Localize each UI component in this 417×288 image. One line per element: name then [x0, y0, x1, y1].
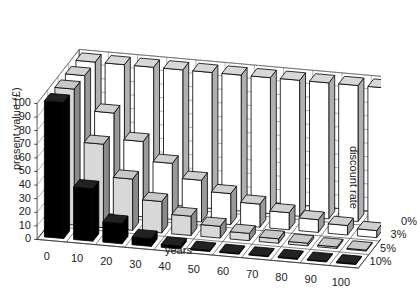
- y-tick-label: 50: [19, 164, 31, 176]
- y-tick-label: 70: [19, 137, 31, 149]
- legend-series-label: 5%: [380, 242, 396, 254]
- bar-front: [310, 81, 329, 219]
- x-tick-label: 60: [217, 265, 229, 277]
- y-tick-label: 10: [19, 219, 31, 231]
- y-tick-label: 30: [19, 192, 31, 204]
- x-tick-label: 20: [100, 255, 112, 267]
- x-tick-label: 80: [275, 271, 287, 283]
- bar-front: [251, 76, 270, 214]
- x-tick-label: 100: [332, 276, 350, 288]
- bar-side: [270, 70, 276, 214]
- bar-front: [74, 187, 93, 241]
- bar-side: [202, 173, 208, 222]
- z-axis-label: discount rate: [348, 146, 360, 209]
- y-tick-label: 100: [13, 96, 31, 108]
- bar-front: [299, 218, 318, 233]
- legend-series-label: 10%: [370, 255, 392, 267]
- y-tick-label: 90: [19, 110, 31, 122]
- bar-front: [143, 200, 162, 233]
- y-tick-label: 80: [19, 124, 31, 136]
- bar-side: [300, 73, 306, 217]
- legend-series-label: 3%: [391, 228, 407, 240]
- y-tick-label: 20: [19, 205, 31, 217]
- bar-front: [103, 222, 122, 244]
- legend-series-label: 0%: [401, 215, 417, 227]
- x-tick-label: 0: [44, 250, 50, 262]
- bar-front: [280, 79, 299, 217]
- y-tick-label: 40: [19, 178, 31, 190]
- bar-side: [329, 75, 335, 219]
- bar-side: [93, 181, 99, 241]
- x-tick-label: 90: [305, 273, 317, 285]
- x-tick-label: 40: [159, 260, 171, 272]
- bar-front: [368, 86, 381, 224]
- x-tick-label: 10: [71, 252, 83, 264]
- bar-front: [172, 215, 191, 236]
- x-tick-label: 70: [246, 268, 258, 280]
- y-tick-label: 0: [25, 232, 31, 244]
- bar-front: [44, 101, 63, 239]
- bar-front: [241, 202, 260, 227]
- bar-side: [64, 95, 70, 239]
- x-tick-label: 30: [129, 258, 141, 270]
- y-tick-label: 60: [19, 151, 31, 163]
- bar-side: [133, 172, 139, 231]
- x-tick-label: 50: [188, 263, 200, 275]
- x-axis-label: years: [165, 244, 192, 256]
- bar-side: [241, 68, 247, 212]
- bar-front: [270, 211, 289, 230]
- bar-front: [201, 225, 220, 239]
